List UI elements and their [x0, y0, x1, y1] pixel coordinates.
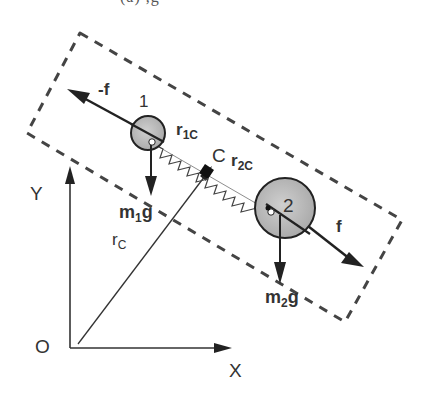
center-label: C: [212, 145, 226, 166]
x-axis-arrow-icon: [214, 343, 232, 353]
m2g-label: m2g: [265, 287, 299, 310]
mass-1-label: 1: [139, 92, 148, 111]
origin-label: O: [35, 336, 50, 357]
rc-label: rC: [112, 230, 127, 252]
mass-2-spring-end: [266, 206, 271, 211]
r1c-label: r1C: [176, 120, 198, 142]
m2g-g: g: [288, 287, 299, 307]
system-boundary: [27, 33, 402, 322]
force-left-label: -f: [98, 80, 110, 99]
m2g-m: m: [265, 287, 281, 307]
rc-sub: C: [118, 238, 127, 252]
mass-2-label: 2: [283, 195, 294, 216]
m1g-m: m: [119, 202, 135, 222]
m1g-arrow-icon: [145, 176, 157, 196]
x-axis-label: X: [229, 360, 242, 381]
force-left-arrow-icon: [67, 89, 90, 104]
physics-diagram: -f 1 r1C C r2C 2 f m1g rC m2g Y X O: [0, 0, 429, 411]
r1c-sub: 1C: [183, 128, 199, 142]
mass-1-pivot: [149, 139, 155, 145]
m1g-g: g: [142, 202, 153, 222]
m1g-label: m1g: [119, 202, 153, 225]
rc-vector: [78, 172, 208, 344]
force-right-label: f: [336, 217, 342, 236]
y-axis-label: Y: [30, 183, 43, 204]
y-axis-arrow-icon: [65, 166, 75, 184]
r2c-sub: 2C: [238, 159, 254, 173]
r2c-label: r2C: [231, 151, 253, 173]
